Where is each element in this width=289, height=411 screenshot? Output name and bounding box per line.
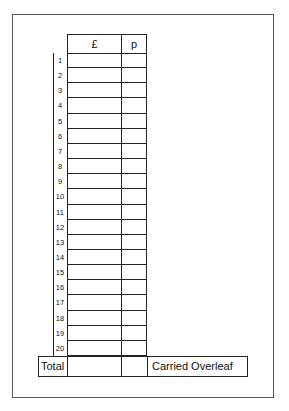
pence-cell[interactable] bbox=[121, 205, 147, 220]
pence-cell[interactable] bbox=[121, 114, 147, 129]
pounds-cell[interactable] bbox=[67, 250, 121, 265]
pounds-cell[interactable] bbox=[67, 68, 121, 83]
pounds-cell[interactable] bbox=[67, 189, 121, 204]
table-row: 4 bbox=[53, 98, 147, 113]
table-row: 17 bbox=[53, 295, 147, 310]
pence-cell[interactable] bbox=[121, 129, 147, 144]
row-number: 15 bbox=[53, 268, 67, 277]
table-row: 14 bbox=[53, 250, 147, 265]
pounds-cell[interactable] bbox=[67, 235, 121, 250]
row-number: 18 bbox=[53, 314, 67, 323]
row-number: 13 bbox=[53, 238, 67, 247]
row-number: 3 bbox=[53, 86, 67, 95]
row-number: 9 bbox=[53, 177, 67, 186]
pounds-cell[interactable] bbox=[67, 129, 121, 144]
row-number: 8 bbox=[53, 162, 67, 171]
pounds-header: £ bbox=[67, 34, 122, 54]
pence-cell[interactable] bbox=[121, 83, 147, 98]
carried-overleaf-box: Carried Overleaf bbox=[147, 356, 248, 377]
total-label: Total bbox=[38, 356, 68, 377]
pence-cell[interactable] bbox=[121, 98, 147, 113]
table-row: 13 bbox=[53, 235, 147, 250]
table-row: 7 bbox=[53, 144, 147, 159]
pounds-cell[interactable] bbox=[67, 280, 121, 295]
pounds-cell[interactable] bbox=[67, 295, 121, 310]
table-row: 18 bbox=[53, 311, 147, 326]
row-number: 11 bbox=[53, 208, 67, 217]
pounds-cell[interactable] bbox=[67, 83, 121, 98]
table-row: 1 bbox=[53, 53, 147, 68]
table-row: 10 bbox=[53, 189, 147, 204]
table-row: 12 bbox=[53, 220, 147, 235]
pence-cell[interactable] bbox=[121, 144, 147, 159]
pence-header: p bbox=[121, 34, 147, 54]
row-number: 5 bbox=[53, 117, 67, 126]
pounds-cell[interactable] bbox=[67, 53, 121, 68]
table-row: 20 bbox=[53, 341, 147, 356]
total-pence-cell[interactable] bbox=[121, 356, 148, 377]
row-number: 14 bbox=[53, 253, 67, 262]
pounds-cell[interactable] bbox=[67, 341, 121, 356]
pence-cell[interactable] bbox=[121, 295, 147, 310]
pence-cell[interactable] bbox=[121, 235, 147, 250]
row-number: 10 bbox=[53, 192, 67, 201]
table-row: 5 bbox=[53, 114, 147, 129]
row-number: 17 bbox=[53, 298, 67, 307]
table-row: 16 bbox=[53, 280, 147, 295]
pounds-cell[interactable] bbox=[67, 265, 121, 280]
pounds-cell[interactable] bbox=[67, 159, 121, 174]
pence-cell[interactable] bbox=[121, 311, 147, 326]
pence-cell[interactable] bbox=[121, 68, 147, 83]
row-number: 12 bbox=[53, 223, 67, 232]
table-row: 15 bbox=[53, 265, 147, 280]
total-pounds-cell[interactable] bbox=[67, 356, 122, 377]
pounds-cell[interactable] bbox=[67, 114, 121, 129]
row-number: 2 bbox=[53, 71, 67, 80]
row-number: 4 bbox=[53, 101, 67, 110]
pence-cell[interactable] bbox=[121, 341, 147, 356]
table-row: 2 bbox=[53, 68, 147, 83]
pence-cell[interactable] bbox=[121, 265, 147, 280]
pence-cell[interactable] bbox=[121, 53, 147, 68]
table-row: 9 bbox=[53, 174, 147, 189]
table-row: 8 bbox=[53, 159, 147, 174]
table-row: 6 bbox=[53, 129, 147, 144]
pence-cell[interactable] bbox=[121, 250, 147, 265]
pence-cell[interactable] bbox=[121, 189, 147, 204]
pounds-cell[interactable] bbox=[67, 311, 121, 326]
row-number: 20 bbox=[53, 344, 67, 353]
pounds-cell[interactable] bbox=[67, 205, 121, 220]
pounds-cell[interactable] bbox=[67, 326, 121, 341]
pounds-cell[interactable] bbox=[67, 144, 121, 159]
row-number: 19 bbox=[53, 329, 67, 338]
pounds-cell[interactable] bbox=[67, 174, 121, 189]
pence-cell[interactable] bbox=[121, 280, 147, 295]
row-number: 16 bbox=[53, 283, 67, 292]
row-number: 7 bbox=[53, 147, 67, 156]
table-row: 3 bbox=[53, 83, 147, 98]
table-row: 11 bbox=[53, 205, 147, 220]
table-row: 19 bbox=[53, 326, 147, 341]
row-number: 1 bbox=[53, 56, 67, 65]
pence-cell[interactable] bbox=[121, 174, 147, 189]
pounds-cell[interactable] bbox=[67, 98, 121, 113]
pounds-cell[interactable] bbox=[67, 220, 121, 235]
row-number: 6 bbox=[53, 132, 67, 141]
pence-cell[interactable] bbox=[121, 326, 147, 341]
pence-cell[interactable] bbox=[121, 159, 147, 174]
pence-cell[interactable] bbox=[121, 220, 147, 235]
